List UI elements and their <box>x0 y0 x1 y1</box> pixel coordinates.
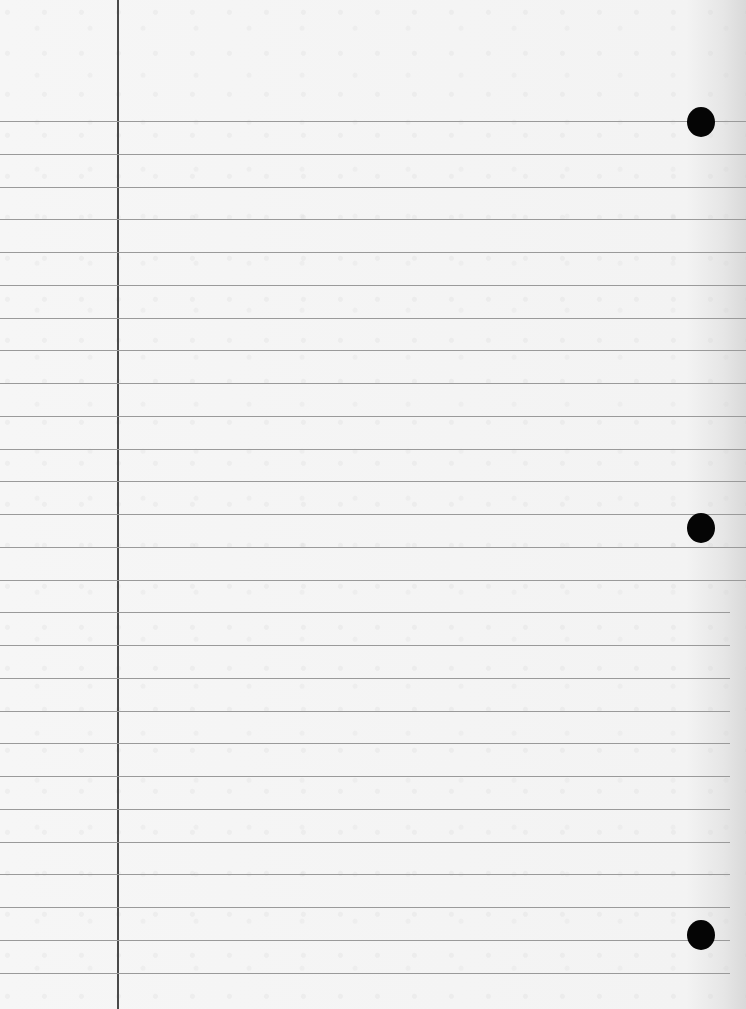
ruled-line <box>0 645 730 646</box>
ruled-line <box>0 547 746 548</box>
ruled-line <box>0 285 746 286</box>
ruled-line <box>0 973 730 974</box>
ruled-line <box>0 449 746 450</box>
ruled-line <box>0 416 746 417</box>
ruled-line <box>0 514 746 515</box>
lined-paper-sheet <box>0 0 746 1009</box>
ruled-line <box>0 678 730 679</box>
ruled-line <box>0 350 746 351</box>
ruled-line <box>0 874 730 875</box>
ruled-line <box>0 809 730 810</box>
margin-line <box>117 0 119 1009</box>
ruled-line <box>0 318 746 319</box>
ruled-line <box>0 383 746 384</box>
ruled-line <box>0 580 746 581</box>
ruled-line <box>0 776 730 777</box>
ruled-line <box>0 743 730 744</box>
ruled-line <box>0 842 730 843</box>
ruled-line <box>0 940 730 941</box>
ruled-line <box>0 907 730 908</box>
ruled-line <box>0 121 746 122</box>
ruled-line <box>0 187 746 188</box>
ruled-line <box>0 711 730 712</box>
ruled-line <box>0 219 746 220</box>
ruled-line <box>0 154 746 155</box>
punch-hole <box>687 513 715 543</box>
punch-hole <box>687 920 715 950</box>
ruled-line <box>0 481 746 482</box>
punch-hole <box>687 107 715 137</box>
ruled-line <box>0 252 746 253</box>
ruled-line <box>0 612 730 613</box>
